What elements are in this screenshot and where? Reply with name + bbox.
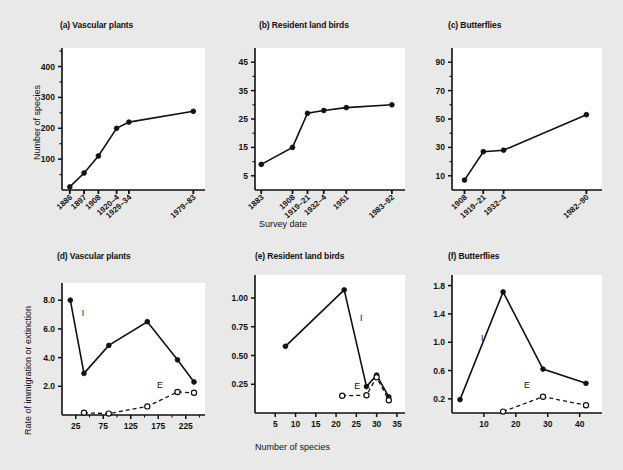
data-point-I [192, 380, 197, 385]
curve-annotation-E: E [157, 380, 163, 390]
x-tick-label: 5 [273, 419, 278, 429]
data-point-Number of species [96, 154, 101, 159]
data-point-Number of species [82, 171, 87, 176]
x-tick-label: 125 [124, 421, 138, 431]
y-tick-label: 6.0 [43, 324, 55, 334]
y-tick-label: 45 [239, 57, 249, 67]
x-tick-label: 30 [543, 419, 553, 429]
data-point-Number of species [259, 162, 264, 167]
data-point-E [175, 389, 180, 394]
y-tick-label: 50 [436, 114, 446, 124]
x-tick-label: 25 [352, 419, 362, 429]
data-point-Number of species [290, 145, 295, 150]
data-point-E [340, 393, 345, 398]
x-tick-label: 15 [311, 419, 321, 429]
x-tick-label: 1932–4 [482, 192, 508, 217]
y-tick-label: 300 [41, 92, 55, 102]
panel-b: (b) Resident land birds 5152535451883190… [207, 0, 414, 235]
y-tick-label: 1.00 [231, 293, 248, 303]
x-tick-label: 1951 [331, 192, 351, 211]
y-tick-label: 1.0 [433, 337, 445, 347]
y-tick-label: 35 [239, 86, 249, 96]
x-tick-label: 10 [291, 419, 301, 429]
x-tick-label: 1979–83 [168, 192, 198, 220]
data-point-I [82, 371, 87, 376]
data-point-I [541, 367, 546, 372]
y-tick-label: 0.2 [433, 394, 445, 404]
panel-f: (f) Butterflies 0.20.61.01.41.810203040I… [410, 235, 623, 470]
panel-a-plot: 1002003004001886189719081920–41929–34197… [0, 0, 212, 235]
y-tick-label: 70 [436, 86, 446, 96]
y-tick-label: 100 [41, 154, 55, 164]
curve-annotation-I: I [481, 333, 484, 343]
data-point-E [501, 409, 506, 414]
data-point-E [540, 394, 545, 399]
x-tick-label: 1883 [246, 192, 266, 211]
panel-e: (e) Resident land birds 0.250.500.751.00… [207, 235, 414, 470]
data-point-E [106, 411, 111, 416]
y-tick-label: 0.75 [231, 322, 248, 332]
data-point-Number of species [67, 185, 72, 190]
curve-annotation-I: I [82, 308, 85, 318]
data-point-I [106, 343, 111, 348]
x-tick-label: 1983–92 [367, 192, 397, 220]
panel-c: (c) Butterflies 103050709019081919–21193… [410, 0, 623, 235]
y-tick-label: 4.0 [43, 353, 55, 363]
data-point-Number of species [344, 105, 349, 110]
data-point-Number of species [114, 126, 119, 131]
data-point-Number of species [305, 111, 310, 116]
data-point-Number of species [126, 120, 131, 125]
data-point-Number of species [584, 112, 589, 117]
y-tick-label: 0.50 [231, 351, 248, 361]
data-point-I [175, 357, 180, 362]
panel-e-plot: 0.250.500.751.005101520253035IE [207, 235, 414, 470]
figure-canvas: (a) Vascular plants Number of species 10… [0, 0, 623, 470]
x-tick-label: 40 [575, 419, 585, 429]
x-tick-label: 225 [179, 421, 193, 431]
data-point-E [386, 398, 391, 403]
data-point-Number of species [390, 102, 395, 107]
data-point-E [374, 375, 379, 380]
y-tick-label: 0.25 [231, 379, 248, 389]
y-tick-label: 200 [41, 123, 55, 133]
data-point-I [283, 344, 288, 349]
shared-xlabel-number-of-species: Number of species [255, 442, 330, 452]
x-tick-label: 175 [151, 421, 165, 431]
data-point-I [68, 298, 73, 303]
data-point-I [501, 290, 506, 295]
panel-d: (d) Vascular plants Rate of immigration … [0, 235, 212, 470]
y-tick-label: 2.0 [43, 381, 55, 391]
data-point-I [364, 384, 369, 389]
data-point-E [583, 403, 588, 408]
y-tick-label: 15 [239, 142, 249, 152]
x-tick-label: 1982–90 [562, 192, 592, 220]
data-point-Number of species [501, 148, 506, 153]
x-tick-label: 30 [372, 419, 382, 429]
y-tick-label: 10 [436, 171, 446, 181]
y-tick-label: 1.4 [433, 309, 445, 319]
x-tick-label: 20 [331, 419, 341, 429]
y-tick-label: 8.0 [43, 295, 55, 305]
data-point-I [458, 397, 463, 402]
data-point-E [81, 410, 86, 415]
y-tick-label: 0.6 [433, 366, 445, 376]
data-point-E [364, 393, 369, 398]
panel-d-plot: 2.04.06.08.02575125175225IE [0, 235, 212, 470]
y-tick-label: 90 [436, 57, 446, 67]
panel-f-plot: 0.20.61.01.41.810203040IE [410, 235, 623, 470]
y-tick-label: 30 [436, 142, 446, 152]
x-tick-label: 25 [71, 421, 81, 431]
data-point-Number of species [321, 108, 326, 113]
y-tick-label: 5 [243, 171, 248, 181]
curve-annotation-E: E [524, 380, 530, 390]
data-point-I [145, 319, 150, 324]
data-point-I [584, 381, 589, 386]
panel-b-plot: 515253545188319081919–211932–419511983–9… [207, 0, 414, 235]
y-tick-label: 25 [239, 114, 249, 124]
y-tick-label: 1.8 [433, 281, 445, 291]
y-tick-label: 400 [41, 62, 55, 72]
data-point-E [191, 390, 196, 395]
x-tick-label: 10 [479, 419, 489, 429]
curve-annotation-E: E [354, 381, 360, 391]
data-point-Number of species [481, 149, 486, 154]
